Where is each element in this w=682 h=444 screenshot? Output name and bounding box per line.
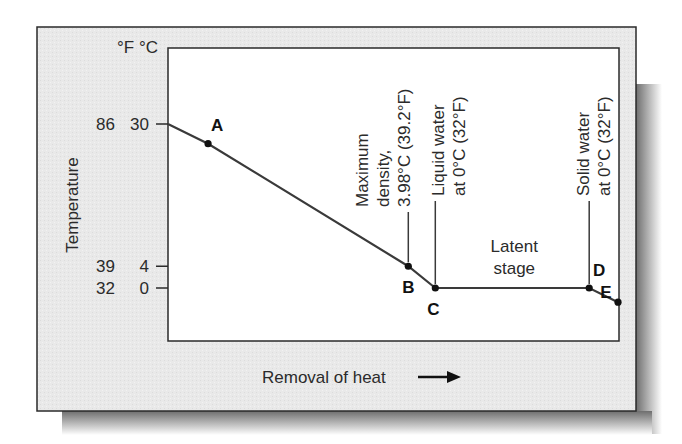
annotation-text: Solid water [574,112,593,196]
annotation-text: Maximum [353,133,372,207]
point-label-b: B [402,278,414,297]
frame-shadow-bottom [62,411,652,435]
unit-header: °F °C [117,38,158,57]
annotation-text: at 0°C (32°F) [450,96,469,196]
annotation-text: Latent [491,237,539,256]
annotation-text: at 0°C (32°F) [595,96,614,196]
point-label-d: D [593,261,605,280]
point-e [614,299,621,306]
point-d [586,284,593,291]
annotation-text: Liquid water [429,104,448,196]
plot-area [168,48,619,341]
cooling-curve-figure: °F °C 8630394320 Temperature Removal of … [0,0,682,444]
y-tick-label-c: 30 [130,115,149,134]
annotation-text: density, [374,150,393,207]
y-tick-label-c: 4 [140,257,149,276]
frame-shadow-right [636,84,662,434]
point-label-e: E [600,283,611,302]
point-c [432,284,439,291]
y-tick-label-f: 39 [96,257,115,276]
annotation-text: stage [493,259,535,278]
y-tick-label-f: 86 [96,115,115,134]
point-a [204,140,211,147]
x-axis-label: Removal of heat [262,368,386,387]
point-label-c: C [427,300,439,319]
y-axis-label: Temperature [63,157,82,252]
annotation-text: 3.98°C (39.2°F) [395,89,414,207]
point-label-a: A [211,116,223,135]
y-tick-label-c: 0 [140,279,149,298]
point-b [405,263,412,270]
y-tick-label-f: 32 [96,279,115,298]
